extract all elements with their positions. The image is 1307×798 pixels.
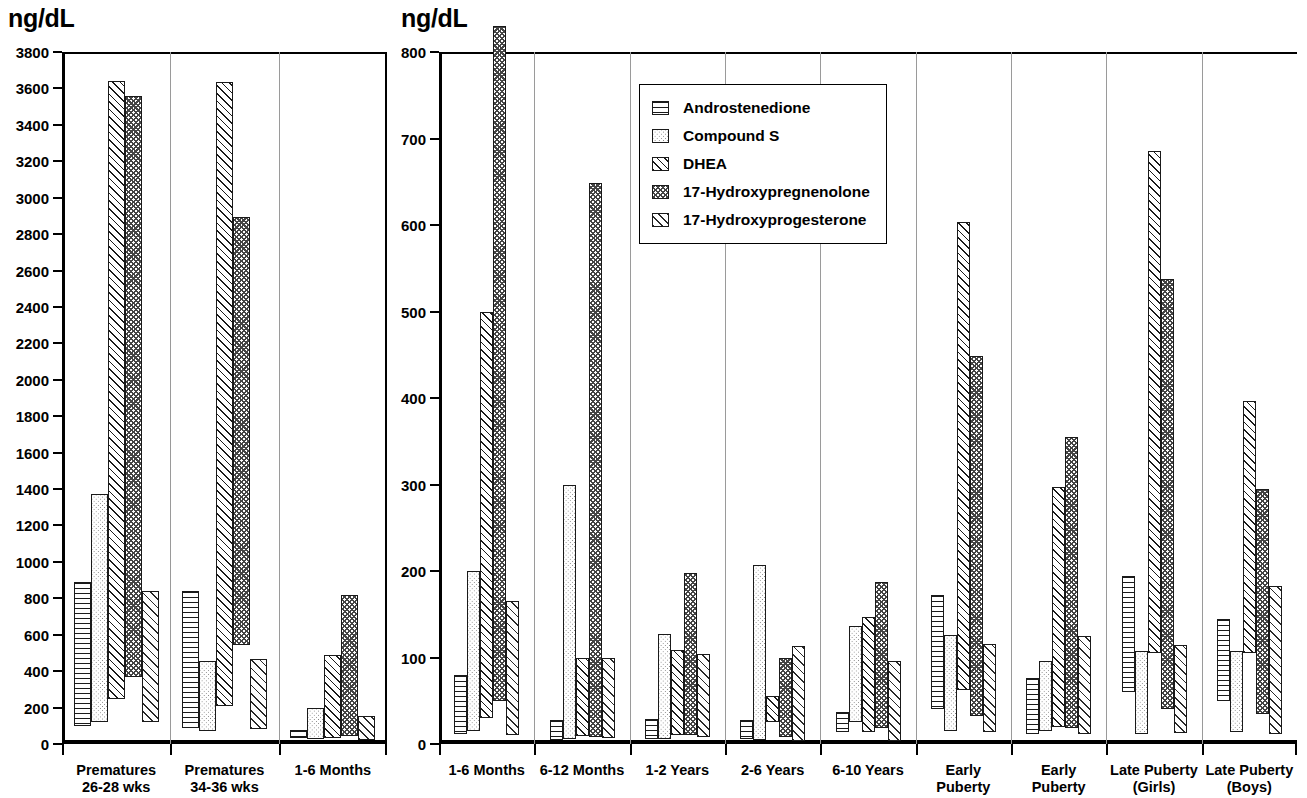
group-separator — [279, 52, 280, 744]
x-axis-category-label: Late Puberty(Girls) — [1110, 762, 1198, 796]
range-bar — [1052, 487, 1065, 727]
x-axis-tick — [1106, 744, 1108, 755]
x-axis-tick — [820, 744, 822, 755]
range-bar — [358, 716, 375, 741]
y-axis-tick — [430, 311, 439, 313]
legend-item: Androstenedione — [652, 94, 870, 122]
legend-swatch-icon — [652, 185, 669, 199]
range-bar — [480, 312, 493, 719]
y-axis-tick — [53, 524, 62, 526]
x-axis-line-right — [439, 740, 1297, 744]
x-axis-category-label-line: 1-6 Months — [295, 762, 372, 779]
range-bar — [1122, 576, 1135, 692]
y-axis-tick — [53, 124, 62, 126]
x-axis-category-label: 6-10 Years — [832, 762, 904, 779]
y-axis-tick-label: 800 — [401, 44, 426, 61]
y-axis-tick-label: 1400 — [16, 481, 49, 498]
x-axis-category-label-line: Late Puberty — [1110, 762, 1198, 779]
y-axis-tick-label: 700 — [401, 130, 426, 147]
y-axis-tick-label: 2200 — [16, 335, 49, 352]
y-axis-line-left — [62, 52, 65, 744]
y-axis-unit-label-right: ng/dL — [401, 6, 468, 31]
legend-item-label: Compound S — [683, 127, 779, 145]
range-bar — [740, 720, 753, 739]
y-axis-tick-label: 3800 — [16, 44, 49, 61]
x-axis-line-left — [62, 740, 387, 744]
range-bar — [836, 712, 849, 732]
range-bar — [589, 183, 602, 737]
x-axis-tick — [916, 744, 918, 755]
x-axis-category-label-line: 6-10 Years — [832, 762, 904, 779]
range-bar — [506, 601, 519, 735]
x-axis-category-label-line: Early — [936, 762, 990, 779]
range-bar — [875, 582, 888, 727]
x-axis-category-label: Prematures34-36 wks — [185, 762, 265, 796]
y-axis-tick — [430, 657, 439, 659]
range-bar — [576, 658, 589, 736]
x-axis-category-label-line: Early — [1032, 762, 1086, 779]
y-axis-tick-label: 600 — [24, 626, 49, 643]
legend-swatch-icon — [652, 101, 669, 115]
range-bar — [199, 661, 216, 731]
range-bar — [1039, 661, 1052, 731]
range-bar — [454, 675, 467, 734]
range-bar — [753, 565, 766, 740]
x-axis-category-label-line: 26-28 wks — [76, 779, 156, 796]
y-axis-tick-label: 800 — [24, 590, 49, 607]
x-axis-tick — [1011, 744, 1013, 755]
x-axis-tick — [1295, 744, 1297, 755]
x-axis-category-label: Late Puberty(Boys) — [1205, 762, 1293, 796]
legend-swatch-icon — [652, 157, 669, 171]
range-bar — [1148, 151, 1161, 653]
x-axis-category-label-line: 1-2 Years — [646, 762, 709, 779]
y-axis-tick-label: 1200 — [16, 517, 49, 534]
x-axis-category-label: Prematures26-28 wks — [76, 762, 156, 796]
y-axis-tick-label: 500 — [401, 303, 426, 320]
range-bar — [1269, 586, 1282, 735]
range-bar — [1256, 489, 1269, 714]
y-axis-tick — [430, 570, 439, 572]
y-axis-tick-label: 200 — [24, 699, 49, 716]
range-bar — [91, 494, 108, 723]
range-bar — [983, 644, 996, 732]
range-bar — [324, 655, 341, 738]
range-bar — [931, 595, 944, 709]
x-axis-tick — [385, 744, 387, 755]
y-axis-tick-label: 0 — [41, 736, 49, 753]
legend-item: Compound S — [652, 122, 870, 150]
range-bar — [862, 617, 875, 732]
y-axis-tick — [53, 634, 62, 636]
x-axis-category-label-line: (Girls) — [1110, 779, 1198, 796]
y-axis-tick-label: 2400 — [16, 298, 49, 315]
y-axis-tick — [53, 87, 62, 89]
legend-item-label: DHEA — [683, 155, 727, 173]
range-bar — [1135, 651, 1148, 734]
group-separator — [1011, 52, 1012, 744]
range-bar — [290, 730, 307, 737]
range-bar — [766, 696, 779, 723]
top-frame-line-left — [62, 52, 387, 54]
y-axis-tick-label: 2800 — [16, 226, 49, 243]
range-bar — [142, 591, 159, 722]
x-axis-category-label-line: 1-6 Months — [448, 762, 525, 779]
group-separator — [1106, 52, 1107, 744]
y-axis-tick-label: 100 — [401, 649, 426, 666]
x-axis-category-label-line: 2-6 Years — [741, 762, 804, 779]
range-bar — [74, 582, 91, 726]
range-bar — [697, 654, 710, 737]
range-bar — [1230, 651, 1243, 731]
range-bar — [182, 591, 199, 728]
range-bar — [307, 708, 324, 739]
group-separator — [1202, 52, 1203, 744]
y-axis-tick — [430, 743, 439, 745]
range-bar — [684, 573, 697, 736]
y-axis-line-right — [439, 52, 442, 744]
range-bar — [602, 658, 615, 738]
chart-panel-left: ng/dL 0200400600800100012001400160018002… — [0, 0, 392, 798]
y-axis-tick — [53, 670, 62, 672]
y-axis-tick — [53, 597, 62, 599]
legend-swatch-icon — [652, 213, 669, 227]
top-frame-line-right — [439, 52, 1297, 54]
x-axis-tick — [534, 744, 536, 755]
y-axis-tick-label: 3200 — [16, 153, 49, 170]
